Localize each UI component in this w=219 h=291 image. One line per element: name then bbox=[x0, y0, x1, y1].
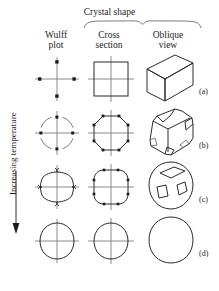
wulff-plot-crystal-shape-figure: Crystal shape Wulff plot Cross section O… bbox=[0, 0, 219, 291]
cross-section-row-a bbox=[85, 54, 137, 104]
row-label-a: (a) bbox=[199, 88, 208, 96]
column-header-cross-section: Cross section bbox=[83, 31, 135, 51]
column-header-cross-section-line2: section bbox=[83, 41, 135, 51]
oblique-view-row-b bbox=[141, 105, 197, 159]
wulff-plot-row-c bbox=[31, 162, 83, 212]
increasing-temperature-axis: Increasing temperature bbox=[2, 95, 22, 235]
wulff-plot-row-b bbox=[31, 108, 83, 158]
column-header-wulff-plot: Wulff plot bbox=[29, 31, 83, 51]
row-label-c: (c) bbox=[199, 196, 208, 204]
arrow-down-icon bbox=[10, 95, 22, 235]
column-header-wulff-plot-line1: Wulff bbox=[45, 30, 67, 40]
column-header-oblique-view: Oblique view bbox=[137, 31, 199, 51]
crystal-shape-group-title-text: Crystal shape bbox=[84, 8, 135, 18]
oblique-view-row-d bbox=[141, 213, 197, 267]
column-header-cross-section-line1: Cross bbox=[98, 30, 120, 40]
column-header-oblique-view-line1: Oblique bbox=[153, 30, 184, 40]
cross-section-row-d bbox=[85, 216, 137, 266]
cross-section-row-c bbox=[85, 162, 137, 212]
row-label-d: (d) bbox=[199, 250, 208, 258]
oblique-view-row-c bbox=[141, 159, 197, 213]
crystal-shape-group-title: Crystal shape bbox=[0, 8, 219, 18]
column-header-wulff-plot-line2: plot bbox=[29, 41, 83, 51]
cross-section-row-b bbox=[85, 108, 137, 158]
wulff-plot-row-d bbox=[31, 216, 83, 266]
curly-brace-down-icon bbox=[83, 20, 202, 29]
column-header-oblique-view-line2: view bbox=[137, 41, 199, 51]
oblique-view-row-a bbox=[141, 51, 197, 105]
wulff-plot-row-a bbox=[31, 54, 83, 104]
row-label-b: (b) bbox=[199, 142, 208, 150]
